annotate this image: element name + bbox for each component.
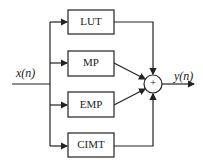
block-label-cimt: CIMT (68, 138, 114, 150)
summer-symbol: + (147, 77, 159, 88)
output-label: y(n) (174, 69, 193, 84)
input-label: x(n) (16, 66, 35, 81)
block-label-emp: EMP (68, 98, 114, 110)
block-label-mp: MP (68, 56, 114, 68)
block-label-lut: LUT (68, 15, 114, 27)
